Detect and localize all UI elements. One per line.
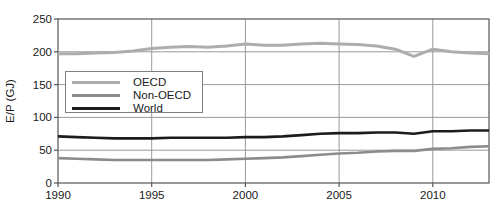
y-axis-title: E/P (GJ) bbox=[4, 79, 16, 123]
y-tick-label: 0 bbox=[46, 177, 52, 189]
energy-per-capita-chart: 05010015020025019901995200020052010 E/P … bbox=[0, 0, 502, 214]
legend-label-oecd: OECD bbox=[133, 76, 166, 88]
x-tick-label: 1990 bbox=[45, 189, 71, 201]
legend-line-sample-world bbox=[72, 107, 120, 110]
series-line-world bbox=[58, 131, 489, 139]
series-line-oecd bbox=[58, 43, 489, 56]
y-tick-label: 50 bbox=[39, 144, 52, 156]
legend-line-sample-non-oecd bbox=[72, 94, 120, 97]
legend-item-world: World bbox=[72, 102, 202, 114]
series-line-non-oecd bbox=[58, 146, 489, 160]
legend-item-oecd: OECD bbox=[72, 76, 202, 88]
y-tick-label: 100 bbox=[33, 111, 52, 123]
legend-label-world: World bbox=[133, 102, 163, 114]
x-tick-label: 2000 bbox=[233, 189, 259, 201]
x-tick-label: 2005 bbox=[326, 189, 352, 201]
y-tick-label: 250 bbox=[33, 13, 52, 25]
x-tick-label: 1995 bbox=[139, 189, 165, 201]
legend-label-non-oecd: Non-OECD bbox=[133, 89, 191, 101]
x-tick-label: 2010 bbox=[420, 189, 446, 201]
y-tick-label: 200 bbox=[33, 46, 52, 58]
legend-line-sample-oecd bbox=[72, 81, 120, 84]
legend-item-non-oecd: Non-OECD bbox=[72, 89, 202, 101]
legend: OECD Non-OECD World bbox=[65, 71, 203, 113]
y-tick-label: 150 bbox=[33, 79, 52, 91]
